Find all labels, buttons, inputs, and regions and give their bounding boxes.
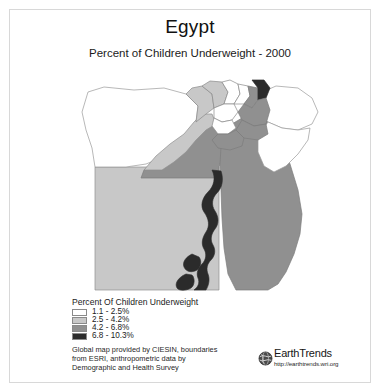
legend-swatch-class-2 — [72, 317, 87, 324]
legend-item: 6.8 - 10.3% — [72, 332, 242, 340]
brand-text-block: EarthTrends http://earthtrends.wri.org — [274, 348, 338, 368]
source-credit: Global map provided by CIESIN, boundarie… — [72, 345, 247, 373]
earthtrends-brand[interactable]: EarthTrends http://earthtrends.wri.org — [258, 348, 338, 368]
credit-line-1: Global map provided by CIESIN, boundarie… — [72, 345, 247, 354]
map-poster: Egypt Percent of Children Underweight - … — [0, 0, 380, 392]
legend-swatch-class-3 — [72, 325, 87, 332]
credit-line-2: from ESRI, anthropometric data by — [72, 354, 247, 363]
credit-line-3: Demographic and Health Survey — [72, 363, 247, 372]
region-delta-center — [214, 104, 238, 122]
map-figure — [46, 78, 336, 294]
page-subtitle: Percent of Children Underweight - 2000 — [0, 46, 380, 60]
map-legend: Percent Of Children Underweight 1.1 - 2.… — [72, 297, 242, 340]
legend-label-class-4: 6.8 - 10.3% — [92, 332, 134, 340]
page-title: Egypt — [0, 16, 380, 38]
legend-title: Percent Of Children Underweight — [72, 297, 242, 307]
brand-name: EarthTrends — [274, 348, 338, 359]
brand-url[interactable]: http://earthtrends.wri.org — [274, 360, 338, 368]
globe-icon — [258, 351, 273, 366]
legend-swatch-class-4 — [72, 333, 87, 340]
egypt-choropleth-map — [46, 78, 336, 294]
legend-swatch-class-1 — [72, 309, 87, 316]
